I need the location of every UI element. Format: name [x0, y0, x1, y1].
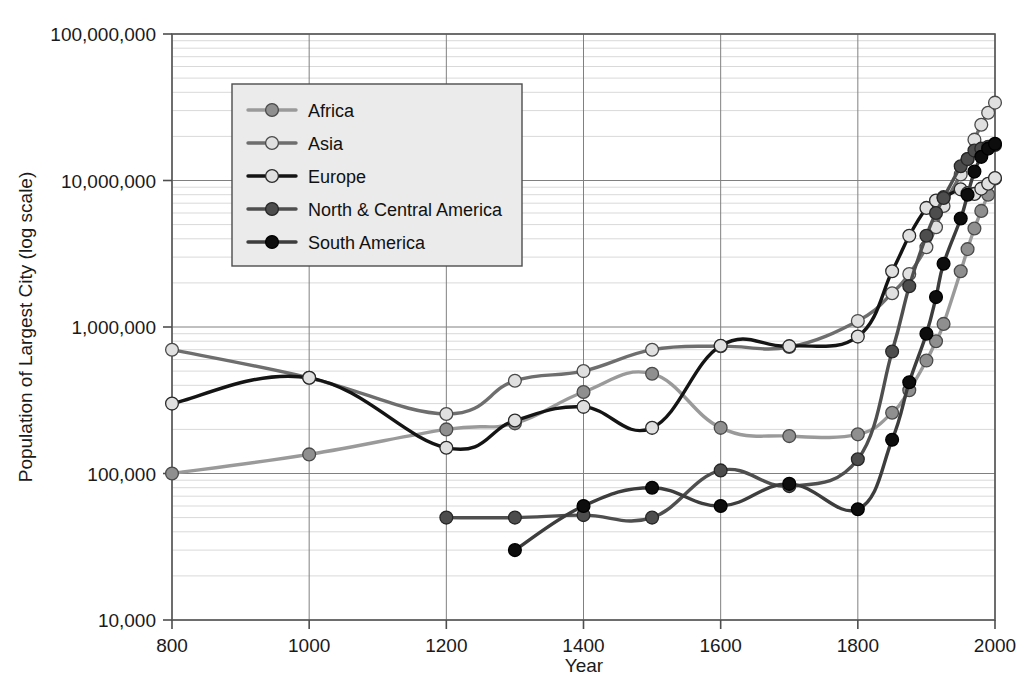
data-point [577, 386, 590, 399]
data-point [851, 503, 864, 516]
data-point [577, 365, 590, 378]
data-point [783, 340, 796, 353]
data-point [937, 317, 950, 330]
y-tick-label: 10,000,000 [61, 171, 156, 192]
x-tick-label: 800 [156, 635, 188, 656]
y-tick-label: 10,000 [98, 610, 156, 631]
x-tick-label: 1000 [288, 635, 330, 656]
data-point [961, 188, 974, 201]
data-point [440, 408, 453, 421]
data-point [646, 343, 659, 356]
data-point [303, 448, 316, 461]
data-point [577, 500, 590, 513]
data-point [166, 343, 179, 356]
data-point [954, 212, 967, 225]
data-point [903, 280, 916, 293]
legend-marker-icon [266, 236, 279, 249]
data-point [930, 207, 943, 220]
data-point [920, 354, 933, 367]
data-point [920, 229, 933, 242]
data-point [509, 544, 522, 557]
y-tick-label: 1,000,000 [71, 317, 156, 338]
data-point [783, 477, 796, 490]
data-point [646, 481, 659, 494]
x-tick-label: 1400 [562, 635, 604, 656]
data-point [440, 423, 453, 436]
x-axis-tick-labels: 800100012001400160018002000 [156, 635, 1016, 656]
y-axis-tick-labels: 10,000100,0001,000,00010,000,000100,000,… [50, 24, 156, 631]
y-tick-label: 100,000 [87, 464, 156, 485]
data-point [968, 222, 981, 235]
data-point [968, 165, 981, 178]
data-point [714, 421, 727, 434]
data-point [989, 172, 1002, 185]
x-tick-label: 1800 [837, 635, 879, 656]
legend-item-label: Africa [308, 101, 355, 121]
data-point [975, 205, 988, 218]
data-point [509, 374, 522, 387]
data-point [646, 421, 659, 434]
data-point [903, 376, 916, 389]
y-axis-title: Population of Largest City (log scale) [15, 172, 36, 483]
data-point [577, 400, 590, 413]
data-point [851, 453, 864, 466]
data-point [783, 430, 796, 443]
data-point [166, 467, 179, 480]
data-point [714, 464, 727, 477]
data-point [903, 229, 916, 242]
legend-marker-icon [266, 137, 279, 150]
data-point [937, 192, 950, 205]
data-point [851, 330, 864, 343]
legend-marker-icon [266, 203, 279, 216]
legend-marker-icon [266, 104, 279, 117]
data-point [886, 345, 899, 358]
chart-canvas: 10,000100,0001,000,00010,000,000100,000,… [0, 0, 1024, 691]
data-point [509, 414, 522, 427]
data-point [646, 511, 659, 524]
legend-item-label: Asia [308, 134, 344, 154]
data-point [886, 265, 899, 278]
data-point [920, 327, 933, 340]
data-point [166, 397, 179, 410]
data-point [989, 96, 1002, 109]
data-point [961, 243, 974, 256]
data-point [975, 118, 988, 131]
legend-item-label: Europe [308, 167, 366, 187]
x-tick-label: 1200 [425, 635, 467, 656]
legend-item-label: North & Central America [308, 200, 503, 220]
legend-marker-icon [266, 170, 279, 183]
data-point [930, 291, 943, 304]
data-point [714, 500, 727, 513]
population-line-chart: 10,000100,0001,000,00010,000,000100,000,… [0, 0, 1024, 691]
legend-item-label: South America [308, 233, 426, 253]
x-tick-label: 1600 [700, 635, 742, 656]
legend: AfricaAsiaEuropeNorth & Central AmericaS… [232, 84, 522, 266]
y-tick-label: 100,000,000 [50, 24, 156, 45]
data-point [509, 511, 522, 524]
data-point [954, 265, 967, 278]
data-point [851, 428, 864, 441]
data-point [937, 257, 950, 270]
data-point [303, 371, 316, 384]
data-point [440, 441, 453, 454]
data-point [440, 511, 453, 524]
data-point [714, 339, 727, 352]
data-point [886, 433, 899, 446]
data-point [886, 406, 899, 419]
x-axis-title: Year [565, 655, 604, 676]
x-tick-label: 2000 [974, 635, 1016, 656]
data-point [886, 287, 899, 300]
data-point [851, 315, 864, 328]
data-point [989, 137, 1002, 150]
data-point [646, 367, 659, 380]
